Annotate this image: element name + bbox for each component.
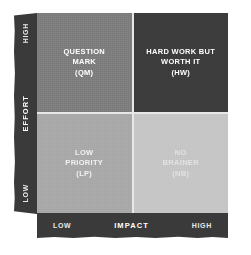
quadrant-low-priority[interactable]: LOW PRIORITY (LP) [37, 114, 132, 213]
quadrant-no-brainer-label: NO BRAINER (NB) [159, 148, 203, 178]
x-axis-title: IMPACT [114, 221, 149, 230]
quadrant-question-mark-label: QUESTION MARK (QM) [59, 47, 109, 77]
x-axis-high-tick: HIGH [192, 222, 212, 229]
x-axis-bar: LOW IMPACT HIGH [37, 213, 228, 238]
y-axis-low-tick: LOW [22, 184, 29, 202]
y-axis-title: EFFORT [21, 95, 30, 132]
quadrant-hard-work-label: HARD WORK BUT WORTH IT (HW) [142, 47, 219, 77]
quadrant-grid: QUESTION MARK (QM) HARD WORK BUT WORTH I… [37, 13, 228, 213]
quadrant-hard-work[interactable]: HARD WORK BUT WORTH IT (HW) [134, 13, 229, 112]
quadrant-low-priority-label: LOW PRIORITY (LP) [61, 148, 107, 178]
effort-impact-matrix: QUESTION MARK (QM) HARD WORK BUT WORTH I… [0, 0, 251, 255]
y-axis-bar: HIGH EFFORT LOW [14, 13, 37, 214]
quadrant-no-brainer[interactable]: NO BRAINER (NB) [134, 114, 229, 213]
x-axis-low-tick: LOW [53, 222, 71, 229]
quadrant-question-mark[interactable]: QUESTION MARK (QM) [37, 13, 132, 112]
y-axis-high-tick: HIGH [22, 23, 29, 43]
